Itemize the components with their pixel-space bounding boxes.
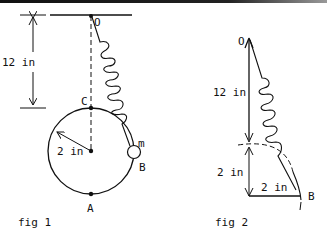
fig2-2in-horizontal-label: 2 in bbox=[261, 182, 288, 193]
fig2-12in-label: 12 in bbox=[213, 87, 246, 98]
fig1-mass-label: m bbox=[138, 138, 145, 149]
fig2-point-o-label: O bbox=[238, 36, 245, 47]
fig1-12in-label: 12 in bbox=[2, 57, 35, 68]
spring-fig2 bbox=[250, 40, 296, 190]
fig1-point-b-label: B bbox=[139, 162, 146, 173]
fig1-radius-label: 2 in bbox=[57, 146, 84, 157]
fig2-2in-vertical-label: 2 in bbox=[217, 167, 244, 178]
fig2-caption: fig 2 bbox=[215, 217, 248, 228]
fig1-caption: fig 1 bbox=[18, 217, 51, 228]
fig2-point-b-label: B bbox=[308, 191, 315, 202]
fig1-point-o-label: O bbox=[94, 17, 101, 28]
fig1-point-c-label: C bbox=[81, 96, 88, 107]
diagram-canvas bbox=[0, 0, 327, 237]
fig1-point-a-label: A bbox=[87, 203, 94, 214]
spring bbox=[92, 17, 130, 146]
